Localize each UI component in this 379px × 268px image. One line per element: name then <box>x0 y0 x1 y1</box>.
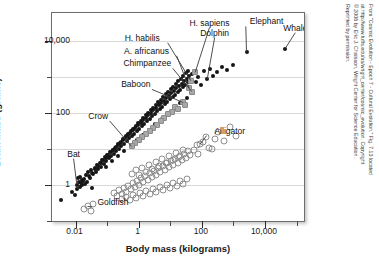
data-point <box>196 75 200 79</box>
data-point <box>206 144 213 151</box>
y-axis-tick-label: 10,000 <box>44 35 70 45</box>
data-point <box>59 198 63 202</box>
credit-line-3: © 2006 by Eric J. Chaisson, Wright Cente… <box>351 4 359 262</box>
data-point <box>211 74 215 78</box>
x-axis-tick-label: 10,000 <box>251 226 277 236</box>
data-point <box>186 69 190 73</box>
data-point <box>116 154 120 158</box>
credit-block: From "Cosmic Evolution - Epoch 7 - Cultu… <box>312 4 374 262</box>
annotation-label: Goldfish <box>97 197 128 207</box>
credit-line-2: at http://www.tufts.edu/as/wright_center… <box>359 4 367 262</box>
data-point <box>211 136 218 143</box>
y-axis-tick-label: 100 <box>56 107 70 117</box>
plot-canvas: H. sapiensH. habilisA. africanusChimpanz… <box>52 13 304 221</box>
x-axis-minor-tick <box>233 221 234 226</box>
data-point <box>220 65 224 69</box>
data-point <box>245 50 249 54</box>
data-point <box>182 102 188 108</box>
annotation-label: Alligator <box>214 126 245 136</box>
data-point <box>85 180 89 184</box>
plot-area: H. sapiensH. habilisA. africanusChimpanz… <box>51 12 305 222</box>
data-point <box>90 201 97 208</box>
data-point <box>199 83 203 87</box>
annotation-label: Elephant <box>250 16 284 26</box>
annotation-label: H. habilis <box>125 33 160 43</box>
data-point <box>90 171 94 175</box>
leader-line <box>246 26 247 51</box>
y-axis-minor-tick <box>47 221 52 222</box>
x-axis-title: Body mass (kilograms) <box>126 243 231 254</box>
data-point <box>87 174 91 178</box>
x-axis-tick-label: 100 <box>194 226 208 236</box>
annotation-label: Whale <box>283 23 304 33</box>
annotation-label: Crow <box>88 111 108 121</box>
data-point <box>179 147 186 154</box>
data-point <box>176 154 183 161</box>
annotation-label: A. africanus <box>124 46 169 56</box>
data-point <box>90 186 94 190</box>
data-point <box>87 207 94 214</box>
x-axis-tick-label: 0.01 <box>66 226 83 236</box>
data-point <box>135 172 142 179</box>
x-axis-tick-label: 1 <box>135 226 140 236</box>
data-point <box>231 63 235 67</box>
x-axis-minor-tick <box>107 221 108 226</box>
data-point <box>110 159 114 163</box>
data-point <box>104 165 108 169</box>
data-point <box>192 69 198 75</box>
annotation-label: Chimpanzee <box>123 58 171 68</box>
data-point <box>283 47 287 51</box>
y-axis-title: Brain mass (grams) <box>0 78 2 167</box>
data-point <box>194 151 201 158</box>
y-axis-tick <box>45 113 52 114</box>
annotation-label: Bat <box>67 149 80 159</box>
y-axis-tick <box>45 185 52 186</box>
x-axis-minor-tick <box>297 221 298 226</box>
x-axis-minor-tick <box>170 221 171 226</box>
data-point <box>208 67 212 71</box>
data-point <box>122 149 126 153</box>
data-point <box>73 193 77 197</box>
credit-line-1: From "Cosmic Evolution - Epoch 7 - Cultu… <box>366 4 374 262</box>
annotation-label: Baboon <box>121 79 150 89</box>
data-point <box>194 80 198 84</box>
data-point <box>215 70 219 74</box>
y-axis-tick-label: 1 <box>65 179 70 189</box>
data-point <box>189 89 195 95</box>
data-point <box>202 69 206 73</box>
data-point <box>205 77 209 81</box>
data-point <box>129 143 135 149</box>
y-axis-minor-tick <box>47 149 52 150</box>
data-point <box>75 187 79 191</box>
data-point <box>175 106 181 112</box>
credit-line-4: Reprinted by permission. <box>343 4 351 262</box>
figure-scatter-brain-vs-body-mass: Brain mass (grams) H. sapiensH. habilisA… <box>0 0 379 268</box>
annotation-label: H. sapiens <box>189 18 229 28</box>
data-point <box>225 68 229 72</box>
gridline <box>52 41 304 42</box>
annotation-label: Dolphin <box>200 28 229 38</box>
data-point <box>188 78 194 84</box>
y-axis-minor-tick <box>47 77 52 78</box>
data-point <box>183 175 190 182</box>
data-point <box>221 137 228 144</box>
